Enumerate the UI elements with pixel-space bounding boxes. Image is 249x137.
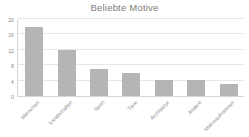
bars-layer [18, 20, 244, 96]
y-tick-label: 0 [11, 94, 14, 100]
bar[interactable] [155, 80, 173, 96]
bar-slot [83, 20, 115, 96]
x-tick-label: Architektur [149, 100, 170, 121]
x-tick-label: Landschaften [48, 100, 74, 126]
plot-area [17, 20, 244, 97]
x-tick-label: Makroaufnahmen [203, 100, 235, 132]
y-tick-label: 4 [11, 79, 14, 85]
bar-slot [18, 20, 50, 96]
bar-slot [213, 20, 245, 96]
bar-slot [148, 20, 180, 96]
y-tick-label: 12 [8, 48, 14, 54]
bar-chart: Beliebte Motive 048121620 MenschenLandsc… [0, 0, 249, 137]
x-tick-label: Sport [93, 100, 105, 112]
bar[interactable] [25, 27, 43, 96]
gridline [18, 18, 244, 19]
bar[interactable] [220, 84, 238, 96]
bar[interactable] [90, 69, 108, 96]
chart-title: Beliebte Motive [0, 2, 249, 13]
y-tick-label: 20 [8, 17, 14, 23]
bar-slot [50, 20, 82, 96]
x-tick-label: Menschen [20, 100, 41, 121]
x-tick-label: Andere [188, 100, 204, 116]
y-tick-label: 16 [8, 32, 14, 38]
bar-slot [115, 20, 147, 96]
x-axis: MenschenLandschaftenSportTiereArchitektu… [17, 97, 244, 137]
x-tick-label: Tiere [126, 100, 138, 112]
y-axis: 048121620 [0, 20, 15, 97]
bar-slot [180, 20, 212, 96]
y-tick-label: 8 [11, 63, 14, 69]
bar[interactable] [122, 73, 140, 96]
bar[interactable] [187, 80, 205, 96]
bar[interactable] [58, 50, 76, 96]
